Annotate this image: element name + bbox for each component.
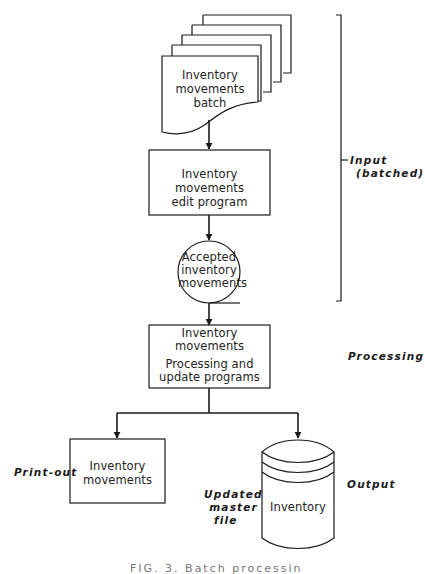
processing-annotation: Processing <box>348 350 424 363</box>
figure-caption: FIG. 3. Batch processing <box>130 562 300 574</box>
master-file-label: Inventory <box>262 500 334 514</box>
output-annotation: Output <box>347 478 396 491</box>
batch-label: Inventory movements batch <box>162 68 258 110</box>
disk-storage-icon <box>262 440 334 549</box>
input-annotation: Input (batched) <box>350 154 424 180</box>
input-bracket <box>336 15 348 301</box>
processing-label: Inventory movements Processing and updat… <box>149 327 270 384</box>
updated-master-annotation: Updated master file <box>204 488 258 527</box>
branch-connector <box>117 388 298 438</box>
accepted-label: Accepted inventory movements <box>178 251 240 290</box>
edit-program-label: Inventory movements edit program <box>149 167 270 209</box>
printout-annotation: Print-out <box>14 466 78 479</box>
printout-label: Inventory movements <box>70 459 165 487</box>
